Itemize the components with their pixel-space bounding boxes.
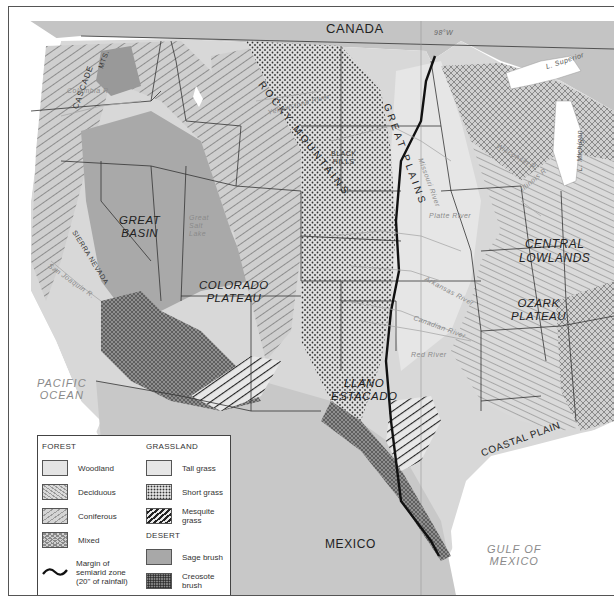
label-great-basin: GREAT BASIN [119,214,160,240]
legend-desert-heading: DESERT [146,531,230,543]
shortgrass-swatch [146,484,172,500]
mesquite-swatch [146,508,172,524]
legend-item-sagebrush: Sage brush [146,548,230,566]
map-legend: FOREST Woodland Deciduous Coniferous Mix… [37,435,231,596]
legend-grassland-column: GRASSLAND Tall grass Short grass Mesquit… [146,442,230,596]
sagebrush-swatch [146,549,172,565]
label-red-river: Red River [411,351,447,358]
legend-item-mixed: Mixed [42,531,128,549]
legend-item-tallgrass: Tall grass [146,459,230,477]
label-ozark-plateau: OZARK PLATEAU [511,297,566,323]
legend-forest-column: FOREST Woodland Deciduous Coniferous Mix… [42,442,128,595]
legend-item-mesquite: Mesquite grass [146,507,230,525]
label-platte-river: Platte River [429,212,471,219]
label-meridian: 98°W [434,29,453,36]
legend-item-creosote: Creosote brush [146,572,230,590]
label-mexico: MEXICO [325,537,376,551]
label-canada: CANADA [326,21,384,36]
woodland-swatch [42,460,68,476]
label-llano-estacado: LLANO ESTACADO [331,377,397,403]
legend-item-woodland: Woodland [42,459,128,477]
legend-item-semiarid-margin: Margin of semiarid zone (20" of rainfall… [42,555,128,589]
legend-item-deciduous: Deciduous [42,483,128,501]
coniferous-swatch [42,508,68,524]
margin-line-icon [42,565,68,579]
deciduous-swatch [42,484,68,500]
creosote-swatch [146,573,172,589]
label-gulf-of-mexico: GULF OF MEXICO [487,543,541,567]
legend-grassland-heading: GRASSLAND [146,442,230,454]
label-great-salt-lake: Great Salt Lake [189,214,209,238]
label-lake-michigan: L. Michigan [576,130,583,171]
label-columbia-river: Columbia R. [67,87,111,94]
label-black-hills: BLACK HILLS [331,150,356,166]
legend-forest-heading: FOREST [42,442,128,454]
mixed-swatch [42,532,68,548]
label-central-lowlands: CENTRAL LOWLANDS [519,237,590,265]
vegetation-map: CANADA 98°W L. Superior L. Michigan ROCK… [8,6,614,596]
legend-item-shortgrass: Short grass [146,483,230,501]
label-pacific-ocean: PACIFIC OCEAN [37,377,87,401]
label-colorado-plateau: COLORADO PLATEAU [199,279,269,305]
tallgrass-swatch [146,460,172,476]
legend-item-coniferous: Coniferous [42,507,128,525]
